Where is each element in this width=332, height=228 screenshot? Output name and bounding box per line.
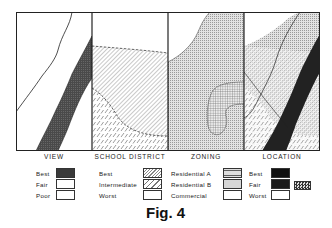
- panel-title-zoning: ZONING: [168, 153, 244, 160]
- legend-label: Best: [36, 170, 50, 177]
- legend-swatch-white: [56, 190, 75, 200]
- school-district-map: [92, 12, 168, 151]
- legend-label: Best: [249, 170, 263, 177]
- figure-caption: Fig. 4: [146, 204, 185, 221]
- legend-swatch-dash-hatch: [143, 179, 162, 189]
- panel-title-school-district: SCHOOL DISTRICT: [92, 153, 168, 160]
- zoning-map: [168, 12, 244, 151]
- panel-title-location: LOCATION: [244, 153, 320, 160]
- legend-swatch-black: [271, 179, 290, 189]
- location-map: [244, 12, 320, 151]
- legend-swatch-white: [223, 190, 242, 200]
- legend-label: Fair: [36, 181, 48, 188]
- legend-swatch-grid: [223, 168, 242, 178]
- legend-swatch-black: [271, 168, 290, 178]
- legend-swatch-white: [56, 179, 75, 189]
- legend-swatch-white: [271, 190, 290, 200]
- legend-label: Intermediate: [99, 181, 137, 188]
- legend-label: Residential B: [171, 181, 211, 188]
- legend-label: Worst: [249, 192, 267, 199]
- legend-swatch-fine-hatch: [143, 168, 162, 178]
- legend-swatch-stipple: [223, 179, 242, 189]
- view-map: [16, 12, 92, 151]
- map-panels: [16, 12, 320, 151]
- legend-swatch-dark: [56, 168, 75, 178]
- legend-label: Best: [99, 170, 113, 177]
- legend-swatch-white: [143, 190, 162, 200]
- legend-label: Commercial: [171, 192, 207, 199]
- legend-swatch-checkered: [294, 181, 311, 190]
- legend-label: Residential A: [171, 170, 211, 177]
- legend-label: Fair: [249, 181, 261, 188]
- legend-label: Poor: [36, 192, 50, 199]
- legend-label: Worst: [99, 192, 117, 199]
- panel-title-view: VIEW: [16, 153, 92, 160]
